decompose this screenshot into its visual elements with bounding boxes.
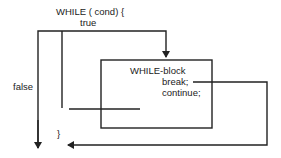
break-label: break; xyxy=(162,76,188,87)
false-label: false xyxy=(13,81,33,92)
flow-lines xyxy=(0,0,281,158)
while-block-label: WHILE-block xyxy=(130,65,185,76)
while-loop-diagram: WHILE ( cond) { true false WHILE-block b… xyxy=(0,0,281,158)
closing-brace: } xyxy=(57,128,60,139)
true-label: true xyxy=(80,17,96,28)
while-header-text: WHILE ( cond) { xyxy=(56,6,124,17)
continue-label: continue; xyxy=(162,87,201,98)
